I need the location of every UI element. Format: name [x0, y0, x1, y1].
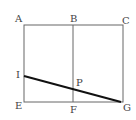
label-G: G	[123, 103, 131, 113]
label-E: E	[15, 101, 22, 111]
label-A: A	[15, 14, 22, 24]
label-I: I	[16, 70, 20, 80]
label-F: F	[70, 105, 77, 115]
label-C: C	[122, 16, 130, 26]
label-B: B	[70, 14, 77, 24]
label-P: P	[76, 78, 83, 88]
